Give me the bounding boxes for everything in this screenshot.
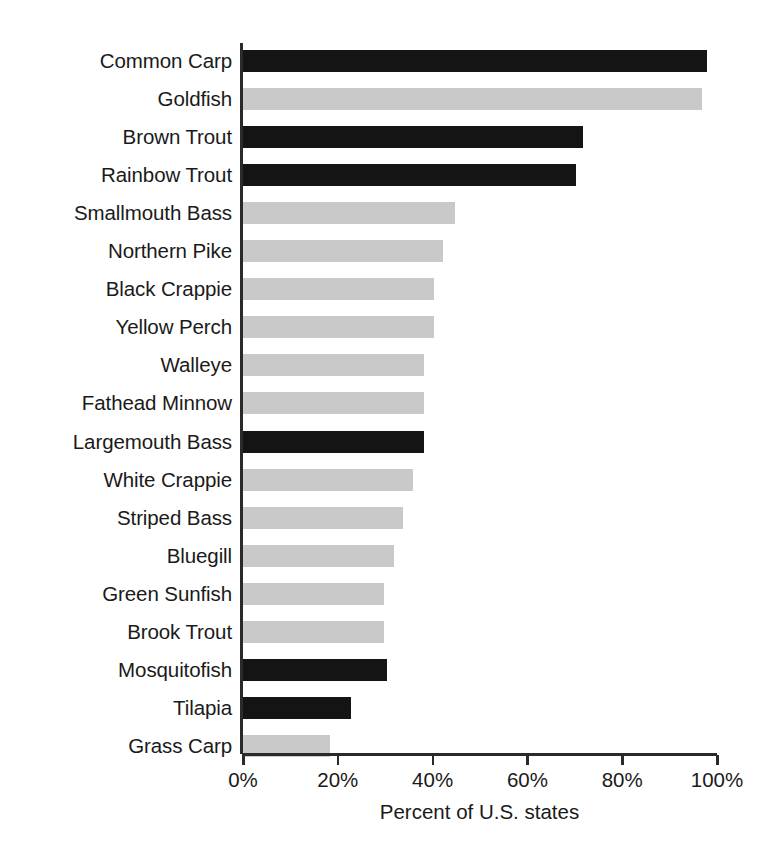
bar-category-label: White Crappie xyxy=(103,461,232,499)
bar-category-label: Fathead Minnow xyxy=(82,384,232,422)
bar-row: Walleye xyxy=(0,346,770,384)
bar xyxy=(242,545,394,567)
bar xyxy=(242,659,387,681)
bar-row: Rainbow Trout xyxy=(0,156,770,194)
bar-category-label: Largemouth Bass xyxy=(73,423,232,461)
bar xyxy=(242,240,443,262)
bar-category-label: Common Carp xyxy=(100,42,232,80)
bar-category-label: Rainbow Trout xyxy=(101,156,232,194)
bar-row: Green Sunfish xyxy=(0,575,770,613)
bar xyxy=(242,278,434,300)
bar-row: Brown Trout xyxy=(0,118,770,156)
bar-row: Brook Trout xyxy=(0,613,770,651)
bar-row: Mosquitofish xyxy=(0,651,770,689)
bar-row: White Crappie xyxy=(0,461,770,499)
bar xyxy=(242,697,351,719)
x-axis-tick-label: 20% xyxy=(317,768,358,792)
bar-row: Black Crappie xyxy=(0,270,770,308)
bar-row: Tilapia xyxy=(0,689,770,727)
bar xyxy=(242,507,403,529)
bar xyxy=(242,88,702,110)
bar-category-label: Goldfish xyxy=(158,80,232,118)
bar xyxy=(242,126,583,148)
bar-row: Northern Pike xyxy=(0,232,770,270)
bar-category-label: Black Crappie xyxy=(106,270,232,308)
bar-category-label: Northern Pike xyxy=(108,232,232,270)
bar-category-label: Bluegill xyxy=(167,537,232,575)
bar xyxy=(242,354,424,376)
bar-row: Common Carp xyxy=(0,42,770,80)
bar-row: Grass Carp xyxy=(0,727,770,765)
plot-area: Common CarpGoldfishBrown TroutRainbow Tr… xyxy=(0,0,770,760)
x-axis-line xyxy=(242,753,717,756)
x-axis-tick xyxy=(432,755,435,765)
bar-chart: Common CarpGoldfishBrown TroutRainbow Tr… xyxy=(0,0,770,843)
bar-row: Bluegill xyxy=(0,537,770,575)
bar-row: Striped Bass xyxy=(0,499,770,537)
x-axis-title: Percent of U.S. states xyxy=(242,800,717,824)
bar-category-label: Mosquitofish xyxy=(118,651,232,689)
bar xyxy=(242,202,455,224)
bar xyxy=(242,164,576,186)
bar xyxy=(242,316,434,338)
bar-category-label: Yellow Perch xyxy=(115,308,232,346)
bar-row: Goldfish xyxy=(0,80,770,118)
bar-category-label: Grass Carp xyxy=(128,727,232,765)
bar-row: Fathead Minnow xyxy=(0,384,770,422)
bar-row: Largemouth Bass xyxy=(0,423,770,461)
x-axis-tick-label: 80% xyxy=(602,768,643,792)
bar-category-label: Brook Trout xyxy=(127,613,232,651)
x-axis-tick-label: 0% xyxy=(228,768,258,792)
bar xyxy=(242,392,424,414)
bar-category-label: Smallmouth Bass xyxy=(74,194,232,232)
x-axis-tick-label: 100% xyxy=(691,768,743,792)
x-axis-tick xyxy=(337,755,340,765)
bar xyxy=(242,621,384,643)
x-axis-tick-label: 60% xyxy=(507,768,548,792)
bar-row: Smallmouth Bass xyxy=(0,194,770,232)
y-axis-line xyxy=(240,43,243,754)
bar-category-label: Brown Trout xyxy=(123,118,232,156)
bar xyxy=(242,50,707,72)
bar-category-label: Walleye xyxy=(161,346,232,384)
x-axis-tick xyxy=(526,755,529,765)
x-axis-tick xyxy=(242,755,245,765)
bar-category-label: Striped Bass xyxy=(117,499,232,537)
bar xyxy=(242,469,413,491)
bar xyxy=(242,583,384,605)
x-axis-tick-label: 40% xyxy=(412,768,453,792)
bar-row: Yellow Perch xyxy=(0,308,770,346)
x-axis-tick xyxy=(716,755,719,765)
x-axis-tick xyxy=(621,755,624,765)
bar-category-label: Green Sunfish xyxy=(102,575,232,613)
bar xyxy=(242,431,424,453)
bar-category-label: Tilapia xyxy=(173,689,232,727)
